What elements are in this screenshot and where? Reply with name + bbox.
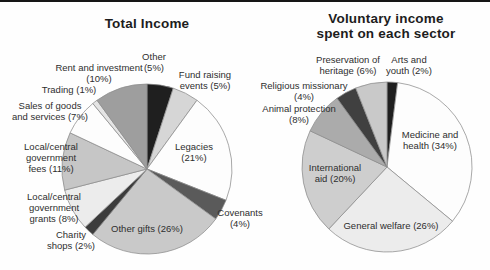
slice-label-rent-investment: Rent and investment (10%) bbox=[55, 63, 142, 85]
slice-label-other: Other (5%) bbox=[142, 52, 166, 74]
slice-label-animal-protection: Animal protection (8%) bbox=[262, 104, 335, 126]
slice-label-general-welfare: General welfare (26%) bbox=[343, 221, 438, 232]
slice-label-government-fees: Local/central government fees (11%) bbox=[24, 142, 78, 174]
slice-label-fund-raising-events: Fund raising events (5%) bbox=[179, 70, 231, 92]
figure-canvas: { "style": { "background": "#fefefe", "t… bbox=[0, 0, 490, 270]
slice-label-preservation-heritage: Preservation of heritage (6%) bbox=[316, 55, 380, 77]
slice-label-legacies: Legacies (21%) bbox=[175, 142, 213, 164]
slice-label-charity-shops: Charity shops (2%) bbox=[47, 230, 95, 252]
slice-label-medicine-health: Medicine and health (34%) bbox=[402, 130, 459, 152]
slice-label-arts-youth: Arts and youth (2%) bbox=[386, 55, 432, 77]
slice-label-religious-missionary: Religious missionary (4%) bbox=[260, 81, 347, 103]
slice-label-sales-goods: Sales of goods and services (7%) bbox=[12, 101, 88, 123]
slice-label-international-aid: International aid (20%) bbox=[309, 163, 361, 185]
slice-label-trading: Trading (1%) bbox=[42, 85, 97, 96]
slice-label-other-gifts: Other gifts (26%) bbox=[111, 224, 183, 235]
slice-label-government-grants: Local/central government grants (8%) bbox=[27, 192, 81, 224]
slice-label-covenants: Covenants (4%) bbox=[217, 208, 262, 230]
